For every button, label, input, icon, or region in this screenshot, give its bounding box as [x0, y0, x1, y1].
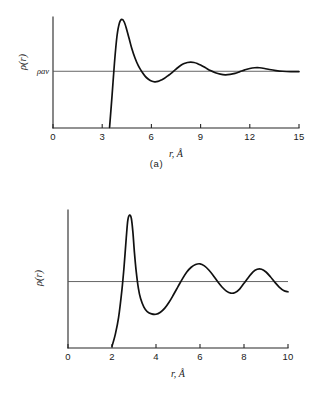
- rho-av-label: ρav: [36, 66, 49, 76]
- x-tick-label: 8: [241, 351, 247, 362]
- x-tick-label: 0: [65, 351, 71, 362]
- x-tick-label: 9: [198, 131, 204, 142]
- x-tick-label: 6: [197, 351, 203, 362]
- x-axis-title: r, Å: [171, 368, 186, 379]
- x-tick-label: 2: [109, 351, 115, 362]
- x-tick-label: 15: [293, 131, 304, 142]
- y-axis-title: ρ(r): [33, 269, 45, 287]
- x-tick-label: 10: [282, 351, 293, 362]
- x-tick-label: 3: [99, 131, 105, 142]
- panel-a-caption: (a): [0, 158, 313, 169]
- x-tick-label: 0: [50, 131, 56, 142]
- x-tick-label: 6: [149, 131, 155, 142]
- x-tick-label: 4: [153, 351, 159, 362]
- plot-a-canvas: 03691215r, Åρ(r)ρav: [0, 0, 313, 206]
- x-tick-label: 12: [244, 131, 255, 142]
- plot-b-canvas: 0246810r, Åρ(r): [0, 190, 313, 412]
- rdf-curve: [110, 19, 299, 127]
- figure-page: 03691215r, Åρ(r)ρav (a) 0246810r, Åρ(r) …: [0, 0, 313, 412]
- rdf-curve: [112, 215, 288, 346]
- plot-panel-b: 0246810r, Åρ(r) (b): [0, 190, 313, 412]
- plot-panel-a: 03691215r, Åρ(r)ρav (a): [0, 0, 313, 206]
- y-axis-title: ρ(r): [17, 53, 29, 71]
